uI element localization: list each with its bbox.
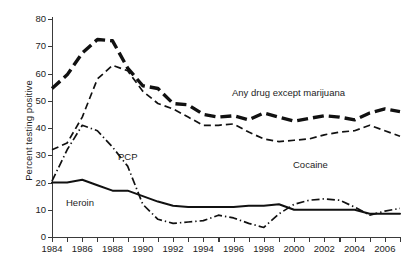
chart-container: Percent testing positive 010203040506070… — [0, 0, 416, 275]
series-line-pcp — [52, 125, 400, 227]
series-line-heroin — [52, 180, 400, 214]
series-line-any-drug-except-marijuana — [52, 39, 400, 121]
annotation-cocaine: Cocaine — [293, 160, 328, 170]
series-layer — [0, 0, 416, 275]
annotation-pcp: PCP — [118, 152, 138, 162]
annotation-any-drug: Any drug except marijuana — [232, 88, 345, 98]
annotation-heroin: Heroin — [66, 198, 94, 208]
